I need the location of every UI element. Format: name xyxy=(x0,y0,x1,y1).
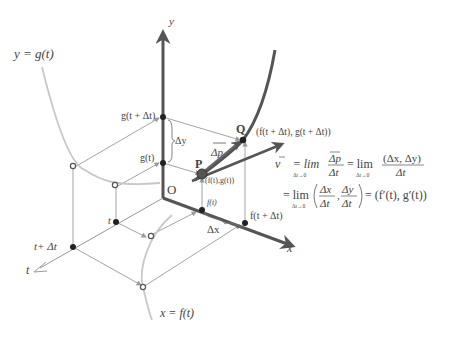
dot-f-t xyxy=(199,207,205,213)
hollow-f1 xyxy=(148,233,153,238)
curve-g xyxy=(42,67,160,184)
t-axis-arrow-icon xyxy=(34,262,47,272)
curve-f-label: x = f(t) xyxy=(159,306,194,320)
curve-f xyxy=(142,215,172,320)
parametric-velocity-diagram: y x t O y = g(t) x = f(t) g(t + Δt) g(t)… xyxy=(0,0,455,339)
formula-line2-frac1-den: Δt xyxy=(319,197,330,209)
t-label: t xyxy=(108,215,111,226)
x-axis xyxy=(163,198,290,245)
f-t-label: f(t) xyxy=(207,198,217,207)
velocity-formula: v⃗ = lim Δt→0 Δp Δt = lim Δt→0 (Δx, Δy) … xyxy=(275,152,427,209)
formula-sub2: Δt→0 xyxy=(356,172,370,178)
dot-g-t-dt xyxy=(160,114,166,120)
point-P-label: P xyxy=(195,157,202,171)
point-P-coords: (f(t),g(t)) xyxy=(205,176,234,185)
curve-g-label: y = g(t) xyxy=(12,46,54,61)
formula-frac1-num: Δp xyxy=(328,152,341,164)
trajectory-curve xyxy=(195,50,275,180)
hollow-f2 xyxy=(140,284,145,289)
formula-comma: , xyxy=(337,189,340,201)
y-axis-label: y xyxy=(168,15,174,27)
formula-line2-sub: Δt→0 xyxy=(292,203,306,209)
formula-line2-eq: = lim xyxy=(283,188,309,202)
x-axis-label: x xyxy=(286,241,293,255)
origin-label: O xyxy=(167,182,176,197)
points xyxy=(70,114,248,290)
formula-v-lim: v⃗ = lim xyxy=(275,157,319,171)
dot-f-t-dt xyxy=(242,220,248,226)
guide-lines xyxy=(73,117,245,287)
point-Q-label: Q xyxy=(236,122,245,136)
formula-sub1: Δt→0 xyxy=(293,172,307,178)
delta-p-label: Δp xyxy=(210,146,223,158)
dot-g-t xyxy=(160,160,166,166)
t-dt-label: t+ Δt xyxy=(34,240,58,252)
formula-frac1-den: Δt xyxy=(328,166,339,178)
formula-frac2-den: Δt xyxy=(395,166,406,178)
formula-line2-frac1-num: Δx xyxy=(319,183,331,195)
formula-line2-result: = (f′(t), g′(t)) xyxy=(365,188,427,202)
point-Q-coords: (f(t + Δt), g(t + Δt)) xyxy=(256,127,331,138)
formula-eq2: = lim xyxy=(347,157,373,171)
formula-line2-frac2-num: Δy xyxy=(341,183,353,195)
dot-t xyxy=(113,219,119,225)
g-t-dt-label: g(t + Δt) xyxy=(121,110,155,122)
delta-y-label: Δy xyxy=(175,135,186,146)
f-t-dt-label: f(t + Δt) xyxy=(250,210,283,222)
delta-y-brace xyxy=(168,120,175,162)
dot-Q xyxy=(240,137,246,143)
t-axis-label: t xyxy=(26,263,30,277)
g-t-label: g(t) xyxy=(140,152,154,164)
formula-frac2-num: (Δx, Δy) xyxy=(383,152,421,165)
dot-t-dt xyxy=(70,244,76,250)
hollow-g1 xyxy=(70,163,75,168)
hollow-g2 xyxy=(112,182,117,187)
delta-x-label: Δx xyxy=(207,223,220,235)
formula-line2-frac2-den: Δt xyxy=(341,197,352,209)
